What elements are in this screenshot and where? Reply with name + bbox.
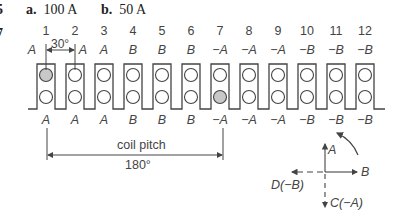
bottom-phase-label: B [176,113,206,127]
bottom-phase-label: −A [205,113,235,127]
bottom-phase-label: A [89,113,119,127]
phasor-label-a: A [328,143,336,157]
slot-number: 8 [237,24,261,38]
bottom-phase-label: −B [321,113,351,127]
phasor-label-c: C(−A) [330,196,363,210]
top-phase-label: B [176,43,206,57]
slot-angle-label: 30° [51,37,69,51]
slot-number: 1 [34,24,58,38]
slot-number: 9 [266,24,290,38]
top-phase-label: −B [321,43,351,57]
slot-number: 12 [353,24,377,38]
bottom-phase-label: −A [234,113,264,127]
top-phase-label: −A [263,43,293,57]
top-phase-label: −A [205,43,235,57]
top-phase-label: B [147,43,177,57]
bottom-phase-label: −A [263,113,293,127]
slot-number: 11 [324,24,348,38]
phasor-label-d: D(−B) [271,178,304,192]
top-phase-label: −B [350,43,380,57]
slot-number: 6 [179,24,203,38]
phasor-label-b: B [361,165,369,179]
winding-diagram [0,0,410,224]
top-phase-label: B [118,43,148,57]
slot-number: 5 [150,24,174,38]
slot-number: 2 [63,24,87,38]
slot-number: 3 [92,24,116,38]
top-phase-label: A [17,43,47,57]
bottom-phase-label: A [60,113,90,127]
bottom-phase-label: −B [292,113,322,127]
bottom-phase-label: B [118,113,148,127]
top-phase-label: −B [292,43,322,57]
slot-number: 4 [121,24,145,38]
slot-number: 10 [295,24,319,38]
top-phase-label: −A [234,43,264,57]
bottom-phase-label: B [147,113,177,127]
coil-pitch-label: coil pitch [117,138,166,152]
coil-pitch-angle: 180° [125,158,151,172]
bottom-phase-label: −B [350,113,380,127]
slot-number: 7 [208,24,232,38]
bottom-phase-label: A [31,113,61,127]
top-phase-label: A [89,43,119,57]
